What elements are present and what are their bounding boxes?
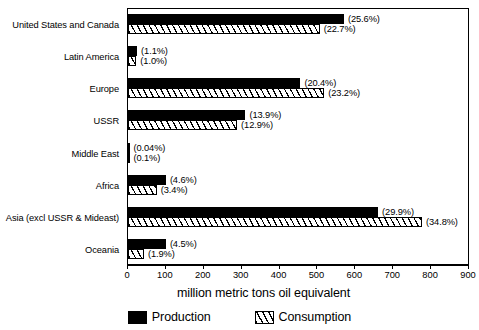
x-tick-label: 700 [384, 270, 400, 281]
x-tick-label: 800 [422, 270, 438, 281]
consumption-bar [128, 217, 422, 227]
x-tick-mark [354, 265, 355, 269]
x-tick-mark [203, 265, 204, 269]
category-label: Europe [90, 84, 119, 94]
chart-legend: Production Consumption [0, 307, 479, 327]
production-bar [128, 207, 378, 217]
category-label: Africa [96, 181, 119, 191]
production-bar [128, 46, 137, 56]
x-tick-label: 500 [309, 270, 325, 281]
production-value-label: (1.1%) [141, 46, 168, 56]
x-tick-mark [468, 265, 469, 269]
production-value-label: (4.6%) [170, 175, 197, 185]
legend-label-consumption: Consumption [279, 310, 352, 324]
consumption-value-label: (1.0%) [140, 56, 167, 66]
consumption-bar [128, 153, 130, 163]
consumption-value-label: (0.1%) [134, 153, 161, 163]
oil-production-consumption-chart: United States and CanadaLatin AmericaEur… [0, 0, 479, 330]
x-tick-label: 100 [157, 270, 173, 281]
production-bar [128, 14, 344, 24]
x-tick-mark [430, 265, 431, 269]
x-tick-label: 200 [195, 270, 211, 281]
diagonal-hatch-swatch-icon [255, 311, 274, 324]
consumption-value-label: (23.2%) [328, 88, 360, 98]
x-tick-label: 0 [124, 270, 129, 281]
production-value-label: (20.4%) [304, 78, 336, 88]
x-tick-label: 900 [460, 270, 476, 281]
consumption-bar [128, 88, 324, 98]
consumption-bar [128, 249, 144, 259]
category-label: Oceania [85, 245, 119, 255]
x-tick-mark [165, 265, 166, 269]
legend-item-production: Production [128, 310, 211, 324]
production-value-label: (4.5%) [170, 239, 197, 249]
x-tick-label: 300 [233, 270, 249, 281]
production-value-label: (29.9%) [382, 207, 414, 217]
production-bar [128, 143, 130, 153]
production-value-label: (13.9%) [249, 110, 281, 120]
x-axis-title: million metric tons oil equivalent [0, 286, 479, 300]
bars-layer: (25.6%)(22.7%)(1.1%)(1.0%)(20.4%)(23.2%)… [128, 8, 469, 265]
production-bar [128, 239, 166, 249]
production-bar [128, 78, 300, 88]
production-bar [128, 175, 166, 185]
x-tick-mark [392, 265, 393, 269]
x-tick-mark [241, 265, 242, 269]
production-value-label: (0.04%) [134, 143, 166, 153]
consumption-value-label: (34.8%) [426, 217, 458, 227]
x-axis-line [127, 265, 469, 266]
x-tick-mark [279, 265, 280, 269]
production-value-label: (25.6%) [348, 14, 380, 24]
consumption-bar [128, 56, 136, 66]
category-label: Asia (excl USSR & Mideast) [6, 213, 119, 223]
consumption-bar [128, 24, 320, 34]
x-tick-mark [127, 265, 128, 269]
category-label: Middle East [72, 149, 119, 159]
x-tick-label: 400 [271, 270, 287, 281]
consumption-value-label: (1.9%) [148, 249, 175, 259]
x-tick-mark [316, 265, 317, 269]
consumption-bar [128, 185, 157, 195]
legend-item-consumption: Consumption [255, 310, 352, 324]
x-tick-label: 600 [347, 270, 363, 281]
category-axis-labels: United States and CanadaLatin AmericaEur… [0, 8, 123, 265]
legend-label-production: Production [152, 310, 211, 324]
production-bar [128, 110, 245, 120]
x-axis-title-text: million metric tons oil equivalent [177, 286, 350, 300]
consumption-bar [128, 120, 237, 130]
consumption-value-label: (12.9%) [241, 120, 273, 130]
category-label: United States and Canada [12, 20, 119, 30]
solid-black-swatch-icon [128, 311, 147, 324]
consumption-value-label: (3.4%) [161, 185, 188, 195]
consumption-value-label: (22.7%) [324, 24, 356, 34]
category-label: Latin America [64, 52, 119, 62]
category-label: USSR [94, 116, 119, 126]
